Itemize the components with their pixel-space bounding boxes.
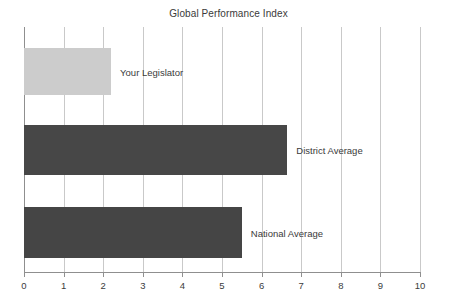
x-tick-label: 2	[101, 280, 106, 291]
bar-your-legislator[interactable]	[24, 48, 111, 95]
gridline-10	[420, 27, 421, 272]
tick-mark-9	[380, 273, 381, 277]
tick-mark-4	[182, 273, 183, 277]
x-tick-label: 10	[415, 280, 426, 291]
bar-label-national-average: National Average	[251, 227, 323, 238]
tick-mark-0	[24, 273, 25, 277]
x-tick-label: 1	[61, 280, 66, 291]
tick-mark-6	[262, 273, 263, 277]
x-tick-label: 5	[219, 280, 224, 291]
tick-mark-5	[222, 273, 223, 277]
tick-mark-10	[420, 273, 421, 277]
x-tick-label: 8	[338, 280, 343, 291]
bar-chart: Global Performance Index 012345678910 Yo…	[0, 0, 457, 305]
tick-mark-2	[103, 273, 104, 277]
x-tick-label: 7	[299, 280, 304, 291]
x-tick-label: 4	[180, 280, 185, 291]
bar-district-average[interactable]	[24, 125, 287, 175]
bar-national-average[interactable]	[24, 207, 242, 258]
x-tick-label: 9	[378, 280, 383, 291]
tick-mark-1	[64, 273, 65, 277]
x-tick-label: 3	[140, 280, 145, 291]
tick-mark-8	[341, 273, 342, 277]
tick-mark-7	[301, 273, 302, 277]
tick-mark-3	[143, 273, 144, 277]
x-tick-label: 6	[259, 280, 264, 291]
chart-title: Global Performance Index	[0, 8, 457, 19]
bar-label-your-legislator: Your Legislator	[120, 66, 183, 77]
gridline-9	[380, 27, 381, 272]
bar-label-district-average: District Average	[296, 145, 362, 156]
x-tick-label: 0	[21, 280, 26, 291]
